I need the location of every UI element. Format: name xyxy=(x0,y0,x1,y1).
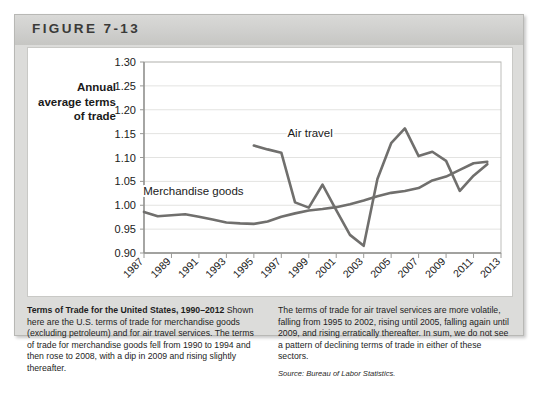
y-axis-tick-label: 0.95 xyxy=(115,223,136,235)
figure-frame: FIGURE 7-13 Annual average terms of trad… xyxy=(14,14,524,336)
chart-panel: Annual average terms of trade 0.900.951.… xyxy=(27,47,513,297)
figure-screenshot: FIGURE 7-13 Annual average terms of trad… xyxy=(0,0,538,419)
x-axis-tick-label: 1999 xyxy=(285,255,310,280)
figure-header-bar: FIGURE 7-13 xyxy=(15,15,523,45)
y-axis-tick-label: 1.25 xyxy=(115,80,136,92)
figure-number-label: FIGURE 7-13 xyxy=(32,21,140,36)
x-axis-tick-label: 2013 xyxy=(477,255,502,280)
caption-left-body: Shown here are the U.S. terms of trade f… xyxy=(27,305,254,373)
x-axis-tick-label: 1993 xyxy=(203,255,228,280)
series-label-air-travel: Air travel xyxy=(287,127,332,139)
x-axis-tick-label: 2009 xyxy=(422,255,447,280)
y-axis-tick-label: 1.30 xyxy=(115,56,136,68)
x-axis-tick-label: 2005 xyxy=(368,255,393,280)
y-axis-tick-label: 1.05 xyxy=(115,175,136,187)
x-axis-tick-label: 1989 xyxy=(148,255,173,280)
x-axis-tick-label: 2001 xyxy=(313,255,338,280)
x-axis-tick-label: 2007 xyxy=(395,255,420,280)
terms-of-trade-line-chart: 0.900.951.001.051.101.151.201.251.301987… xyxy=(28,48,514,298)
caption-headline: Terms of Trade for the United States, 19… xyxy=(27,305,224,315)
y-axis-tick-label: 0.90 xyxy=(115,247,136,259)
x-axis-tick-label: 2003 xyxy=(340,255,365,280)
series-line-air-travel xyxy=(254,128,487,245)
y-axis-tick-label: 1.10 xyxy=(115,152,136,164)
series-label-merchandise-goods: Merchandise goods xyxy=(143,185,244,197)
caption-right-body: The terms of trade for air travel servic… xyxy=(278,305,509,361)
x-axis-tick-label: 1991 xyxy=(175,255,200,280)
y-axis-tick-label: 1.00 xyxy=(115,199,136,211)
caption-right-column: The terms of trade for air travel servic… xyxy=(278,305,513,381)
y-axis-tick-label: 1.15 xyxy=(115,128,136,140)
source-note: Source: Bureau of Labor Statistics. xyxy=(278,368,513,380)
x-axis-tick-label: 1995 xyxy=(230,255,255,280)
x-axis-tick-label: 2011 xyxy=(450,255,475,280)
caption-area: Terms of Trade for the United States, 19… xyxy=(27,305,513,381)
caption-left-column: Terms of Trade for the United States, 19… xyxy=(27,305,262,381)
y-axis-tick-label: 1.20 xyxy=(115,104,136,116)
x-axis-tick-label: 1997 xyxy=(258,255,283,280)
